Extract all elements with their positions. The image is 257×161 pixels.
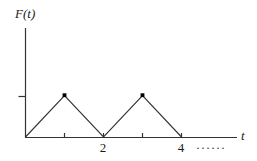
- x-tick-label-4: 4: [171, 141, 191, 154]
- peak-marker-1: [63, 93, 67, 97]
- triangular-wave-chart: F(t) t 2 4 ······: [0, 0, 257, 161]
- y-axis-label: F(t): [15, 7, 35, 20]
- x-axis-label: t: [241, 129, 245, 142]
- x-tick-label-2: 2: [93, 141, 113, 154]
- peak-marker-2: [141, 93, 145, 97]
- waveform-curve: [26, 96, 182, 138]
- continuation-ellipsis: ······: [196, 142, 226, 154]
- chart-canvas: [0, 0, 257, 161]
